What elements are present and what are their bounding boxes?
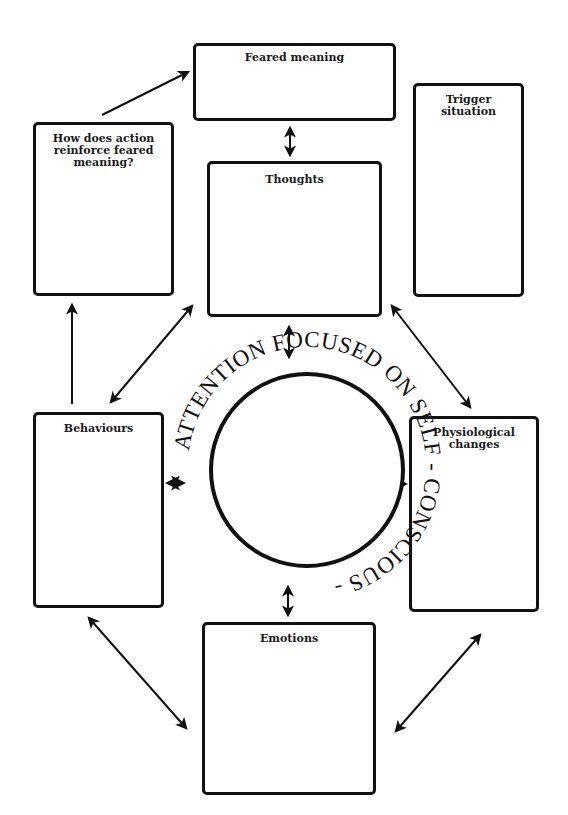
arrow-physiological-emotions	[396, 635, 480, 731]
arrow-thoughts-behaviours	[111, 306, 192, 402]
self-focus-circle[interactable]	[211, 374, 403, 566]
arrow-reinforce-to-feared-meaning	[102, 72, 188, 115]
arrow-behaviours-emotions	[89, 618, 186, 728]
connections-layer: ATTENTION FOCUSED ON SELF - CONSCIOUS -	[0, 0, 568, 815]
